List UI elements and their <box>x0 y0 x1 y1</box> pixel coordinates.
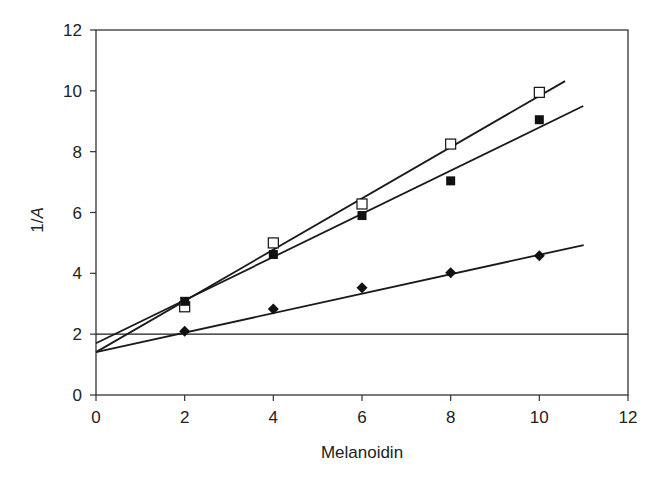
open-square-marker <box>357 199 367 209</box>
filled-square-marker <box>446 176 455 185</box>
fit-line <box>96 106 583 343</box>
y-tick-label: 8 <box>73 143 82 162</box>
open-square-marker <box>446 139 456 149</box>
y-tick-label: 2 <box>73 325 82 344</box>
y-axis-ticks: 024681012 <box>63 21 96 405</box>
filled-square-marker <box>180 297 189 306</box>
y-tick-label: 6 <box>73 204 82 223</box>
chart: 024681012 024681012 Melanoidin 1/A <box>0 0 662 480</box>
x-tick-label: 6 <box>357 408 366 427</box>
filled-diamond-marker <box>179 326 190 337</box>
x-axis-ticks: 024681012 <box>91 395 637 427</box>
x-axis-label: Melanoidin <box>321 443 403 462</box>
x-tick-label: 4 <box>269 408 278 427</box>
x-tick-label: 0 <box>91 408 100 427</box>
fit-line <box>96 81 565 352</box>
x-tick-label: 8 <box>446 408 455 427</box>
x-tick-label: 12 <box>619 408 638 427</box>
x-tick-label: 2 <box>180 408 189 427</box>
y-tick-label: 4 <box>73 264 82 283</box>
fit-lines <box>96 81 584 352</box>
filled-square-marker <box>269 250 278 259</box>
fit-line <box>96 245 584 352</box>
open-square-marker <box>534 87 544 97</box>
x-tick-label: 10 <box>530 408 549 427</box>
filled-diamond-marker <box>445 267 456 278</box>
filled-square-marker <box>535 115 544 124</box>
filled-diamond-marker <box>534 250 545 261</box>
y-tick-label: 12 <box>63 21 82 40</box>
open-square-marker <box>268 238 278 248</box>
y-tick-label: 10 <box>63 82 82 101</box>
filled-diamond-marker <box>357 282 368 293</box>
y-axis-label: 1/A <box>28 207 47 233</box>
y-tick-label: 0 <box>73 386 82 405</box>
filled-square-marker <box>358 211 367 220</box>
